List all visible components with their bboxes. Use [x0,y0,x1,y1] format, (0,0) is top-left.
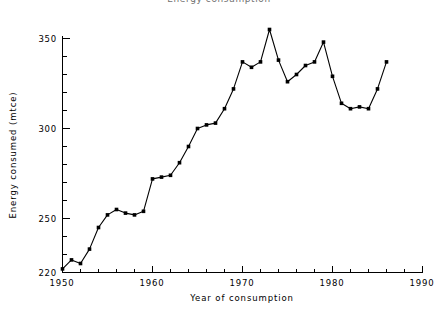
x-axis-tick-labels: 1950 1960 1970 1980 1990 [50,278,435,288]
data-point-marker [232,87,236,91]
data-point-marker [367,107,371,111]
line-chart-plot: 220 250 300 350 [0,0,438,310]
data-point-marker [151,177,155,181]
data-point-marker [124,211,128,215]
data-point-marker [79,262,83,266]
y-axis-title: Energy consumed (mtce) [8,91,18,218]
x-tick-label-1950: 1950 [50,278,75,288]
data-point-marker [286,80,290,84]
data-point-marker [385,60,389,64]
y-axis-tick-labels: 220 250 300 350 [38,34,57,278]
x-tick-label-1960: 1960 [140,278,165,288]
y-tick-label-350: 350 [38,34,57,44]
data-point-marker [97,226,101,230]
data-point-marker [223,107,227,111]
data-point-marker [295,73,299,77]
y-tick-label-300: 300 [38,124,57,134]
data-point-marker [160,175,164,179]
series-line-energy-consumed [63,30,387,269]
data-point-marker [313,60,317,64]
data-point-marker [169,174,173,178]
x-axis-title: Year of consumption [189,293,294,303]
data-point-marker [214,121,218,125]
data-point-marker [376,87,380,91]
x-tick-label-1970: 1970 [230,278,255,288]
data-point-marker [358,105,362,109]
data-point-marker [61,267,65,271]
data-point-marker [250,66,254,70]
data-point-marker [340,102,344,106]
data-point-marker [115,208,119,212]
data-point-marker [304,64,308,68]
y-tick-label-220: 220 [38,268,57,278]
data-point-marker [349,107,353,111]
data-point-marker [142,210,146,214]
data-point-marker [178,161,182,165]
data-point-marker [259,60,263,64]
data-point-marker [268,28,272,32]
y-axis-minor-ticks [63,57,67,255]
y-axis-major-ticks [63,39,70,273]
data-point-marker [106,213,110,217]
data-point-marker [88,247,92,251]
data-point-marker [331,75,335,79]
data-point-marker [187,145,191,149]
y-tick-label-250: 250 [38,214,57,224]
data-point-marker [133,213,137,217]
series-markers-group [61,28,389,271]
data-point-marker [241,60,245,64]
data-point-marker [205,123,209,127]
chart-figure: Energy consumption 220 250 [0,0,438,310]
data-point-marker [70,258,74,262]
data-point-marker [196,127,200,131]
x-tick-label-1990: 1990 [410,278,435,288]
data-point-marker [322,40,326,44]
x-tick-label-1980: 1980 [320,278,345,288]
data-point-marker [277,58,281,62]
